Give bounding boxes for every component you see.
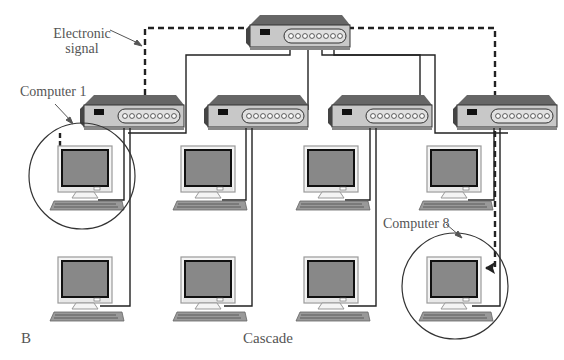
computer-1-label: Computer 1: [20, 84, 87, 99]
electronic-signal-label-line1: Electronic: [53, 26, 111, 41]
electronic-signal-label-line2: signal: [65, 41, 98, 56]
computer-8-label: Computer 8: [383, 216, 450, 231]
panel-letter: B: [21, 331, 31, 346]
electronic-signal-label: Electronic signal: [52, 26, 112, 56]
figure-caption: Cascade: [243, 331, 293, 346]
